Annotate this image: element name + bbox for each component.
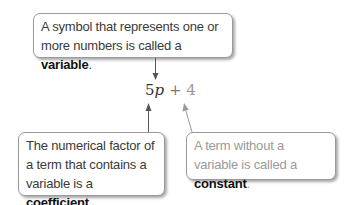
callout-variable-definition: A symbol that represents one or more num… — [33, 13, 233, 58]
expression-operator: + — [164, 81, 186, 99]
callout-text: A symbol that represents one or more num… — [41, 19, 218, 53]
callout-punct: . — [247, 176, 250, 191]
term-constant: constant — [194, 176, 247, 191]
callout-punct: . — [89, 57, 92, 72]
term-coefficient: coefficient — [26, 195, 89, 205]
callout-text: The numerical factor of a term that cont… — [26, 138, 154, 191]
arrow-down-icon — [153, 58, 159, 80]
callout-punct: . — [89, 195, 92, 205]
arrow-up-diagonal-icon — [183, 103, 193, 132]
algebraic-expression: 5p + 4 — [145, 80, 196, 100]
callout-constant-definition: A term without a variable is called a co… — [186, 132, 336, 180]
callout-coefficient-definition: The numerical factor of a term that cont… — [18, 132, 165, 196]
expression-variable: p — [155, 81, 165, 99]
arrow-up-icon — [146, 103, 152, 132]
callout-text: A term without a variable is called a — [194, 138, 297, 172]
term-variable: variable — [41, 57, 89, 72]
expression-constant: 4 — [186, 81, 196, 99]
expression-coefficient: 5 — [145, 81, 155, 99]
